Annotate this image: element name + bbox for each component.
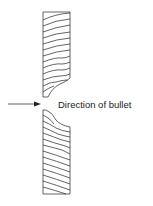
upper-grain-lines: [43, 13, 70, 92]
lower-grain-lines: [43, 115, 70, 194]
direction-label: Direction of bullet: [58, 99, 131, 110]
arrow-head-icon: [34, 102, 41, 107]
